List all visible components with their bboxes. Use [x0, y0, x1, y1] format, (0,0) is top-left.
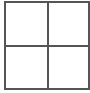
grid-cell-bottom-right — [49, 47, 88, 88]
grid-cell-top-left — [6, 3, 47, 45]
grid-cell-bottom-left — [6, 47, 47, 88]
grid-cell-top-right — [49, 3, 88, 45]
two-by-two-grid — [4, 1, 90, 90]
